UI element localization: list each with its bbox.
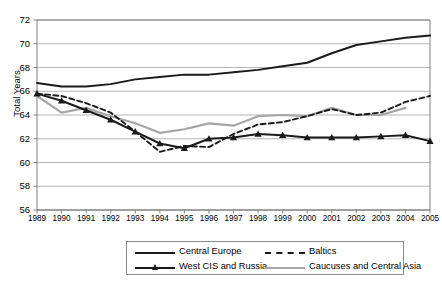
legend-label-central-europe: Central Europe (179, 246, 242, 257)
plot-area (0, 0, 442, 282)
legend-label-caucuses-and-central-asia: Caucuses and Central Asia (309, 261, 421, 272)
series-line-central-europe (37, 35, 430, 86)
legend-line-swatch-dashed-icon (265, 252, 305, 257)
series-line-baltics (37, 94, 430, 152)
legend-label-baltics: Baltics (309, 246, 336, 257)
legend-line-swatch-gray-icon (265, 267, 305, 272)
chart-legend: Central Europe Baltics West CIS and Russ… (126, 241, 404, 275)
legend-line-swatch-solid-icon (135, 252, 175, 257)
legend-triangle-marker-icon (152, 264, 158, 270)
life-expectancy-line-chart: Total Years 565860626466687072 198919901… (0, 0, 442, 282)
legend-label-west-cis-and-russia: West CIS and Russia (179, 261, 267, 272)
